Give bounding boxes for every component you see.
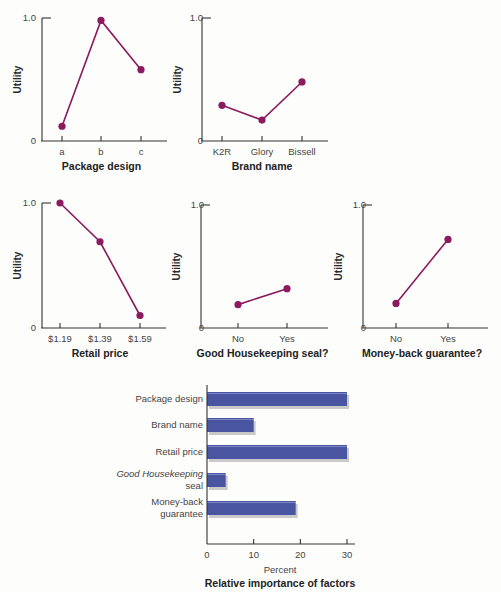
y-tick-label: 0 (31, 135, 36, 146)
data-point-marker (56, 199, 63, 206)
category-label: Money-back (151, 496, 203, 507)
data-point-marker (97, 17, 104, 24)
x-tick-label: $1.39 (88, 333, 112, 344)
y-tick-label: 0 (31, 322, 36, 333)
x-tick-label: Yes (440, 333, 456, 344)
x-tick-label: 20 (295, 549, 306, 560)
utility-chart-5: 1.00UtilityNoYesMoney-back guarantee? (333, 199, 488, 359)
y-tick-label: 1.0 (23, 197, 36, 208)
utility-chart-1: 1.00UtilityabcPackage design (12, 12, 167, 172)
x-tick-label: c (139, 146, 144, 157)
utility-line (396, 239, 448, 303)
importance-bar (207, 473, 226, 487)
y-axis-label: Utility (172, 65, 183, 93)
y-tick-label: 0 (361, 322, 366, 333)
x-axis-label: Percent (264, 564, 297, 575)
x-tick-label: No (390, 333, 402, 344)
x-tick-label: 0 (204, 549, 209, 560)
x-axis-title: Retail price (72, 347, 129, 359)
y-axis-label: Utility (12, 251, 23, 279)
chart-title: Relative importance of factors (205, 577, 356, 589)
data-point-marker (444, 236, 451, 243)
importance-bar (207, 392, 347, 406)
x-tick-label: $1.19 (48, 333, 72, 344)
data-point-marker (234, 301, 241, 308)
y-axis-label: Utility (171, 252, 182, 280)
x-axis-title: Package design (62, 160, 141, 172)
utility-line (238, 289, 287, 305)
y-tick-label: 0 (198, 135, 203, 146)
x-tick-label: Glory (251, 146, 274, 157)
x-tick-label: $1.59 (128, 333, 152, 344)
y-tick-label: 0 (199, 322, 204, 333)
category-label: Good Housekeeping (116, 468, 203, 479)
category-label: Brand name (151, 419, 203, 430)
y-tick-label: 1.0 (23, 12, 36, 23)
category-label: Retail price (155, 446, 203, 457)
data-point-marker (283, 285, 290, 292)
utility-line (62, 20, 141, 126)
y-tick-label: 1.0 (191, 199, 204, 210)
importance-bar (207, 501, 296, 515)
x-tick-label: 30 (342, 549, 353, 560)
x-tick-label: 10 (248, 549, 259, 560)
x-axis-title: Good Housekeeping seal? (197, 347, 329, 359)
relative-importance-bar-chart: 0102030PercentRelative importance of fac… (116, 385, 355, 589)
category-label: guarantee (160, 508, 203, 519)
x-axis-title: Brand name (232, 160, 293, 172)
data-point-marker (258, 116, 265, 123)
x-tick-label: Yes (279, 333, 295, 344)
importance-bar (207, 418, 254, 432)
y-tick-label: 1.0 (353, 199, 366, 210)
x-tick-label: b (98, 146, 103, 157)
y-axis-label: Utility (333, 252, 344, 280)
category-label: Package design (135, 393, 203, 404)
y-axis-label: Utility (12, 65, 23, 93)
utility-line (60, 203, 140, 316)
conjoint-analysis-figure: 1.00UtilityabcPackage design1.00UtilityK… (0, 0, 501, 592)
x-tick-label: Bissell (288, 146, 315, 157)
utility-chart-2: 1.00UtilityK2RGloryBissellBrand name (172, 12, 328, 172)
x-tick-label: No (232, 333, 244, 344)
data-point-marker (136, 312, 143, 319)
importance-bar (207, 445, 347, 459)
y-tick-label: 1.0 (190, 12, 203, 23)
data-point-marker (96, 238, 103, 245)
utility-chart-3: 1.00Utility$1.19$1.39$1.59Retail price (12, 197, 166, 359)
data-point-marker (58, 123, 65, 130)
category-label: seal (186, 480, 203, 491)
utility-line (222, 82, 302, 120)
data-point-marker (392, 300, 399, 307)
data-point-marker (218, 102, 225, 109)
data-point-marker (298, 78, 305, 85)
utility-chart-4: 1.00UtilityNoYesGood Housekeeping seal? (171, 199, 328, 359)
x-tick-label: K2R (213, 146, 232, 157)
x-axis-title: Money-back guarantee? (362, 347, 482, 359)
data-point-marker (137, 66, 144, 73)
x-tick-label: a (59, 146, 65, 157)
